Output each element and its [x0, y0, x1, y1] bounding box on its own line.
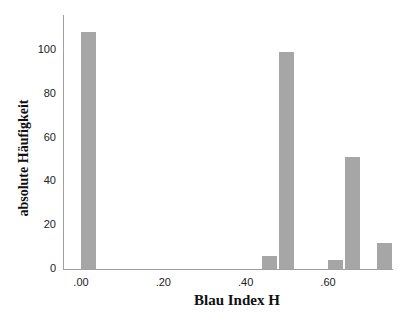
- histogram-bar: [279, 52, 294, 269]
- histogram-bar: [377, 243, 392, 269]
- x-axis-label: Blau Index H: [194, 292, 280, 309]
- histogram-chart: absolute Häufigkeit Blau Index H 0204060…: [0, 0, 418, 321]
- histogram-bar: [262, 256, 277, 269]
- y-tick-label: 20: [26, 218, 56, 230]
- y-tick-label: 100: [26, 43, 56, 55]
- x-tick-label: .40: [231, 276, 261, 288]
- histogram-bar: [345, 157, 360, 269]
- y-axis-line: [63, 15, 64, 270]
- x-tick-label: .60: [313, 276, 343, 288]
- x-tick-label: .00: [66, 276, 96, 288]
- y-tick-label: 60: [26, 131, 56, 143]
- x-tick-label: .20: [148, 276, 178, 288]
- y-tick-label: 80: [26, 87, 56, 99]
- y-axis-label: absolute Häufigkeit: [16, 88, 32, 228]
- y-tick-label: 0: [26, 262, 56, 274]
- y-tick-label: 40: [26, 174, 56, 186]
- x-axis-line: [63, 269, 393, 270]
- histogram-bar: [81, 32, 96, 269]
- histogram-bar: [328, 260, 343, 269]
